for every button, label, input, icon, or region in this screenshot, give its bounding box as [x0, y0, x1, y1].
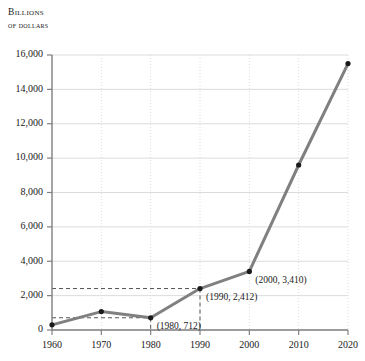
data-point-marker [247, 269, 252, 274]
y-tick-label: 14,000 [16, 83, 44, 94]
y-tick-label: 6,000 [21, 220, 44, 231]
x-tick-label: 1990 [190, 339, 210, 350]
data-point-marker [148, 315, 153, 320]
y-tick-label: 4,000 [21, 255, 44, 266]
data-point-marker [345, 61, 350, 66]
y-tick-label: 2,000 [21, 289, 44, 300]
x-axis-ticks: 1960197019801990200020102020 [42, 330, 358, 350]
y-tick-label: 12,000 [16, 117, 44, 128]
data-point-marker [99, 309, 104, 314]
y-tick-label: 0 [38, 323, 43, 334]
data-line [52, 64, 348, 325]
data-point-marker [197, 286, 202, 291]
y-tick-label: 8,000 [21, 186, 44, 197]
data-point-marker [49, 322, 54, 327]
line-chart: Billions of dollars 02,0004,0006,0008,00… [0, 0, 365, 361]
x-tick-label: 1960 [42, 339, 62, 350]
data-point-marker [296, 162, 301, 167]
point-annotation-label: (1980, 712) [157, 321, 201, 332]
x-tick-label: 2000 [239, 339, 259, 350]
y-tick-label: 10,000 [16, 151, 44, 162]
y-axis-ticks: 02,0004,0006,0008,00010,00012,00014,0001… [16, 48, 53, 334]
x-tick-label: 1970 [91, 339, 111, 350]
x-tick-label: 2010 [289, 339, 309, 350]
series-line [52, 64, 348, 325]
plot-area: 02,0004,0006,0008,00010,00012,00014,0001… [0, 0, 365, 361]
y-tick-label: 16,000 [16, 48, 44, 59]
point-annotation-label: (2000, 3,410) [255, 275, 306, 286]
x-tick-label: 2020 [338, 339, 358, 350]
x-tick-label: 1980 [141, 339, 161, 350]
point-annotations: (1980, 712)(1990, 2,412)(2000, 3,410) [157, 275, 307, 332]
point-annotation-label: (1990, 2,412) [206, 292, 257, 303]
